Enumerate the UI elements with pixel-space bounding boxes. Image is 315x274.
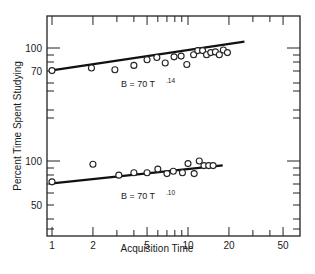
axis-ticks <box>47 16 300 236</box>
data-point <box>162 60 168 66</box>
x-tick-label: 1 <box>49 240 55 251</box>
data-point <box>185 161 191 167</box>
data-point <box>178 53 184 59</box>
x-axis-label: Acquisition Time <box>121 243 194 254</box>
data-point <box>49 68 55 74</box>
data-point <box>144 57 150 63</box>
data-point <box>164 171 170 177</box>
chart-svg: 125102050 1007010050 B = 70 T.14B = 70 T… <box>0 0 315 274</box>
x-tick-label: 20 <box>223 240 235 251</box>
y-tick-label: 100 <box>25 43 42 54</box>
equation-exponent-upper: .14 <box>166 77 175 84</box>
equation-upper: B = 70 T <box>121 79 156 89</box>
data-point <box>116 172 122 178</box>
data-point <box>184 62 190 68</box>
y-tick-labels: 1007010050 <box>25 43 42 211</box>
data-point <box>144 170 150 176</box>
data-point <box>90 161 96 167</box>
y-tick-label: 70 <box>31 66 43 77</box>
data-point <box>170 168 176 174</box>
data-point <box>191 171 197 177</box>
data-point <box>154 55 160 61</box>
equation-exponent-lower: .10 <box>166 189 175 196</box>
plot-frame <box>47 16 300 236</box>
y-tick-label: 100 <box>25 156 42 167</box>
data-point <box>131 170 137 176</box>
y-tick-label: 50 <box>31 200 43 211</box>
y-axis-label: Percent Time Spent Studying <box>12 61 23 191</box>
data-point <box>196 158 202 164</box>
equation-labels: B = 70 T.14B = 70 T.10 <box>121 77 175 201</box>
x-tick-label: 50 <box>277 240 289 251</box>
data-point <box>49 179 55 185</box>
data-point <box>88 65 94 71</box>
data-point <box>112 67 118 73</box>
equation-lower: B = 70 T <box>121 191 156 201</box>
data-point <box>131 62 137 68</box>
fit-line-upper <box>50 42 244 71</box>
data-point <box>224 50 230 56</box>
data-point <box>210 163 216 169</box>
x-tick-label: 2 <box>90 240 96 251</box>
data-point <box>179 170 185 176</box>
chart-container: 125102050 1007010050 B = 70 T.14B = 70 T… <box>0 0 315 274</box>
data-point <box>171 54 177 60</box>
data-point <box>155 166 161 172</box>
